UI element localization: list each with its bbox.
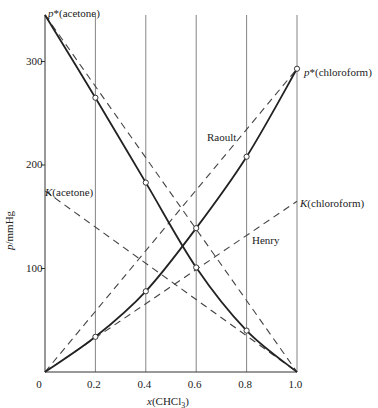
x-axis-label: x(CHCl3) [147, 396, 189, 408]
y-tick-label: 100 [26, 263, 43, 274]
y-tick-label: 300 [26, 56, 43, 67]
data-point [194, 226, 199, 231]
dashed-line [45, 69, 297, 372]
x-tick-label: 0.4 [137, 379, 151, 390]
x-tick-label: 1.0 [289, 379, 303, 390]
vertical-gridlines [95, 15, 297, 372]
label-henry: Henry [252, 235, 280, 246]
x-tick-label: 0.6 [188, 379, 202, 390]
y-axis-label: p/mmHg [3, 211, 15, 250]
label-p-chloroform-text: *(chloroform) [310, 66, 372, 78]
dashed-line [45, 191, 297, 372]
data-point [294, 66, 299, 71]
x-tick-label: 0.2 [87, 379, 101, 390]
label-k-chloroform: K(chloroform) [300, 198, 364, 209]
data-point [93, 95, 98, 100]
data-point [143, 289, 148, 294]
label-k-acetone-text: (acetone) [52, 186, 93, 198]
data-point [143, 180, 148, 185]
label-p-acetone: p*(acetone) [48, 8, 100, 19]
label-raoult: Raoult [207, 132, 236, 143]
data-point [93, 334, 98, 339]
label-k-acetone: K(acetone) [45, 187, 93, 198]
label-p-chloroform: p*(chloroform) [304, 67, 372, 78]
y-tick-label: 200 [26, 159, 43, 170]
data-point [244, 328, 249, 333]
data-point [194, 265, 199, 270]
label-p-acetone-text: *(acetone) [54, 7, 100, 19]
x-tick-label: 0 [36, 379, 42, 390]
label-k-chloroform-text: (chloroform) [307, 197, 364, 209]
data-point [244, 154, 249, 159]
x-tick-label: 0.8 [238, 379, 252, 390]
